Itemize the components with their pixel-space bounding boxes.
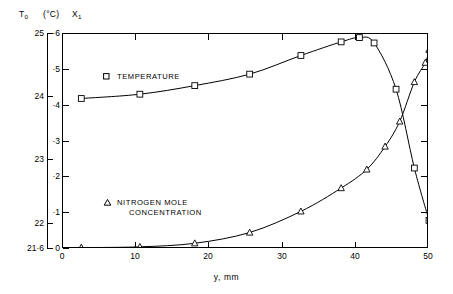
x-axis-label: y, mm (0, 272, 453, 282)
series-temperature (78, 35, 427, 224)
top-axis-tick (282, 34, 283, 40)
right-axis-tick (421, 212, 427, 213)
figure-chart-nitrogen-temperature: T0 (°C) X1 21·622232425 0·1·2·3·4·5·6 01… (0, 0, 453, 294)
bottom-axis-tick (282, 242, 283, 248)
left-axis-tick (47, 223, 53, 224)
triangle-marker (426, 46, 427, 52)
left-axis-tick-label: 23 (14, 154, 44, 164)
plot-frame (62, 33, 428, 248)
plot-area (63, 34, 427, 247)
square-marker (247, 71, 253, 77)
square-marker (192, 83, 198, 89)
square-marker (411, 165, 417, 171)
right-axis-tick (421, 176, 427, 177)
square-marker (338, 39, 344, 45)
triangle-marker (338, 185, 344, 191)
series-line (81, 37, 427, 220)
legend-label-temperature: TEMPERATURE (117, 72, 180, 81)
top-axis-tick (355, 34, 356, 40)
left-axis-symbol: T0 (19, 9, 28, 19)
inner-axis-tick (63, 69, 69, 70)
plot-curves (63, 34, 427, 247)
square-marker (78, 96, 84, 102)
inner-axis-tick-label: ·3 (38, 136, 60, 146)
x-axis-tick-label: 0 (49, 251, 75, 261)
inner-axis-tick (63, 176, 69, 177)
legend-label-nitrogen-line1: NITROGEN MOLE (117, 198, 188, 207)
inner-axis-tick (63, 248, 69, 249)
square-marker (298, 53, 304, 59)
triangle-marker (298, 208, 304, 214)
inner-axis-tick (63, 212, 69, 213)
inner-axis-symbol: X1 (72, 9, 82, 19)
right-axis-tick (421, 141, 427, 142)
inner-axis-tick (63, 33, 69, 34)
right-axis-tick (421, 69, 427, 70)
inner-axis-tick-label: ·5 (38, 64, 60, 74)
legend-label-nitrogen-line2: CONCENTRATION (129, 208, 202, 217)
inner-axis-tick-label: ·4 (38, 100, 60, 110)
inner-axis-tick-label: ·6 (38, 28, 60, 38)
triangle-marker-icon (103, 198, 112, 207)
triangle-marker (422, 59, 427, 65)
x-axis-tick-label: 50 (415, 251, 441, 261)
bottom-axis-tick (355, 242, 356, 248)
left-axis-tick-label: 22 (14, 218, 44, 228)
left-axis-unit: (°C) (43, 9, 59, 19)
top-axis-tick (208, 34, 209, 40)
square-marker (137, 91, 143, 97)
left-axis-tick (47, 159, 53, 160)
right-axis-tick (421, 105, 427, 106)
bottom-axis-tick (208, 242, 209, 248)
square-marker-icon (102, 72, 111, 81)
triangle-marker (78, 244, 84, 247)
triangle-marker (411, 79, 417, 85)
inner-axis-tick-label: ·2 (38, 171, 60, 181)
square-marker (371, 40, 377, 46)
x-axis-tick-label: 20 (195, 251, 221, 261)
top-axis-tick (135, 34, 136, 40)
x-axis-tick-label: 30 (269, 251, 295, 261)
inner-axis-tick-label: ·1 (38, 207, 60, 217)
left-axis-tick (47, 96, 53, 97)
triangle-marker (397, 118, 403, 124)
inner-axis-tick (63, 105, 69, 106)
bottom-axis-tick (135, 242, 136, 248)
square-marker (393, 86, 399, 92)
inner-axis-tick (63, 141, 69, 142)
square-marker (357, 35, 363, 41)
x-axis-tick-label: 40 (342, 251, 368, 261)
x-axis-tick-label: 10 (122, 251, 148, 261)
square-marker (426, 217, 427, 223)
